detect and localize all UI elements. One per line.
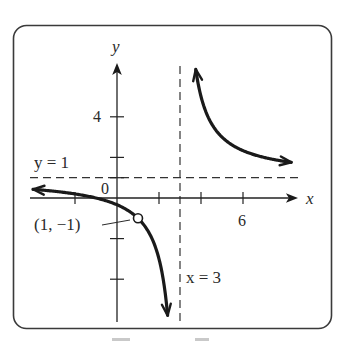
open-point-marker bbox=[134, 214, 143, 223]
x-axis-label: x bbox=[305, 189, 314, 208]
open-point-leader bbox=[102, 220, 130, 225]
right-branch-curve bbox=[196, 69, 292, 162]
y-tick-label-4: 4 bbox=[93, 108, 101, 125]
vertical-asymptote-label: x = 3 bbox=[186, 268, 221, 287]
function-graph: y x 0 4 6 y = 1 x = 3 (1, −1) bbox=[0, 0, 344, 341]
origin-label: 0 bbox=[101, 180, 109, 197]
y-axis-label: y bbox=[110, 37, 120, 56]
frame bbox=[14, 26, 332, 329]
x-tick-label-6: 6 bbox=[238, 212, 246, 229]
horizontal-asymptote-label: y = 1 bbox=[34, 153, 69, 172]
open-point-label: (1, −1) bbox=[34, 215, 80, 234]
left-branch-curve bbox=[33, 189, 168, 315]
